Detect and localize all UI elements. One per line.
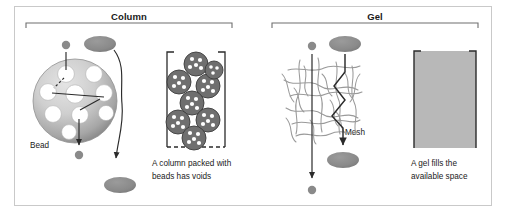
small-molecule-outlet bbox=[75, 151, 83, 159]
large-molecule-outlet bbox=[104, 177, 136, 193]
gel-small-molecule-outlet bbox=[308, 186, 316, 194]
gel-fill-body bbox=[414, 51, 476, 148]
bracket-gel bbox=[272, 23, 478, 28]
packed-beads bbox=[166, 52, 223, 150]
gel-large-molecule-outlet bbox=[327, 152, 359, 168]
gel-mesh-fibers bbox=[282, 58, 362, 144]
gel-small-molecule-inlet bbox=[308, 42, 316, 50]
diagram-vector-layer bbox=[0, 0, 506, 224]
gel-column bbox=[414, 51, 476, 148]
large-molecule-inlet bbox=[84, 36, 116, 52]
gel-large-molecule-inlet bbox=[329, 36, 361, 52]
separation-media-diagram: Column Gel Bead Mesh A column packed wit… bbox=[0, 0, 506, 224]
bracket-column bbox=[26, 23, 232, 28]
small-molecule-inlet bbox=[62, 41, 70, 49]
